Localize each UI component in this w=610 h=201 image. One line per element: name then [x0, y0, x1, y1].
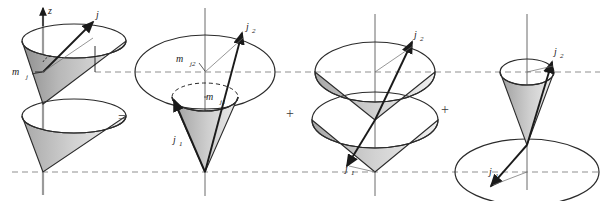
label-j1-panel4-sub: 1: [495, 172, 499, 180]
label-j1-panel3-sub: 1: [351, 169, 355, 177]
label-mj1-main: m: [206, 91, 213, 102]
label-j1: j 1: [171, 134, 183, 148]
lower-cone-body: [22, 116, 126, 172]
panel-coupled-j1-j2: j 2 j 1 m j2 m j1: [135, 8, 275, 196]
label-j1-panel4: j 1: [487, 166, 499, 180]
label-j2: j 2: [244, 21, 256, 35]
label-j2-panel3-sub: 2: [420, 35, 424, 43]
label-mj1-sub: j1: [219, 98, 225, 106]
label-mj2: m j2: [176, 53, 205, 71]
label-mj-main: m: [12, 66, 19, 77]
vector-j2-panel3: [375, 42, 412, 120]
vector-j-label: j: [94, 9, 99, 20]
label-j2-sub: 2: [252, 27, 256, 35]
label-mj1: m j1: [204, 91, 225, 106]
vector-j2-panel3-construction: [375, 46, 413, 72]
label-mj2-sub: j2: [189, 60, 196, 68]
label-j1-panel3: j 1: [343, 163, 355, 177]
label-j2-panel4: j 2: [552, 46, 564, 60]
label-j2-panel3: j 2: [412, 29, 424, 43]
lower-cone-rim: [22, 99, 126, 133]
z-axis-label: z: [47, 5, 52, 16]
label-mj-sub: j: [25, 73, 28, 81]
panel-double-cone-j1-j2: j 2 j 1: [312, 14, 438, 196]
cone-diagram-svg: z j m j =: [0, 0, 610, 201]
label-j1-sub: 1: [179, 140, 183, 148]
label-mj2-main: m: [176, 53, 183, 64]
label-j2-panel3-main: j: [412, 29, 417, 40]
label-j2-panel4-main: j: [552, 46, 557, 57]
panel-small-cone-wide-disc: j 2 j 1: [455, 14, 599, 201]
label-j1-main: j: [171, 134, 176, 145]
operator-equals: =: [118, 110, 126, 125]
figure-canvas: z j m j =: [0, 0, 610, 201]
operator-plus-1: +: [286, 106, 294, 121]
panel-total-j: z j m j: [12, 5, 126, 195]
label-j2-main: j: [244, 21, 249, 32]
label-j2-panel4-sub: 2: [560, 52, 564, 60]
vector-j2-construction: [205, 38, 243, 72]
operator-plus-2: +: [441, 102, 449, 117]
